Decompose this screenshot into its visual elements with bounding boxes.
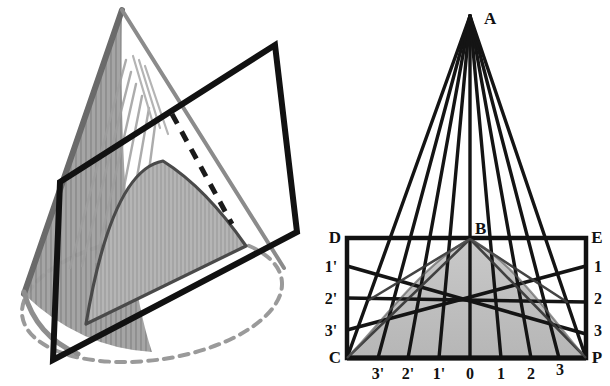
- label-D: D: [329, 228, 341, 247]
- bottom-tick-label-2: 2: [527, 365, 535, 382]
- figure-root: A B D E C P 1' 2' 3' 1 2 3 3' 2' 1' 0 1: [0, 0, 610, 386]
- label-E: E: [591, 228, 602, 247]
- left-tick-label-3prime: 3': [325, 322, 337, 339]
- left-tick-label-2prime: 2': [325, 290, 337, 307]
- left-panel-cone-pictorial: [0, 0, 305, 386]
- left-tick-label-1prime: 1': [325, 258, 337, 275]
- construction-svg: A B D E C P 1' 2' 3' 1 2 3 3' 2' 1' 0 1: [305, 0, 610, 386]
- cone-pictorial-svg: [0, 0, 305, 386]
- label-C: C: [329, 348, 341, 367]
- bottom-tick-label-3: 3: [556, 361, 564, 378]
- right-tick-label-2: 2: [594, 290, 602, 307]
- bottom-tick-label-1prime: 1': [433, 365, 445, 382]
- right-panel-construction: A B D E C P 1' 2' 3' 1 2 3 3' 2' 1' 0 1: [305, 0, 610, 386]
- right-tick-label-3: 3: [594, 322, 602, 339]
- bottom-tick-label-3prime: 3': [372, 365, 384, 382]
- label-P: P: [592, 348, 602, 367]
- label-A: A: [484, 9, 497, 28]
- bottom-tick-label-1: 1: [497, 365, 505, 382]
- label-B: B: [475, 219, 486, 238]
- right-tick-label-1: 1: [594, 258, 602, 275]
- bottom-tick-label-0: 0: [466, 365, 474, 382]
- bottom-tick-label-2prime: 2': [402, 365, 414, 382]
